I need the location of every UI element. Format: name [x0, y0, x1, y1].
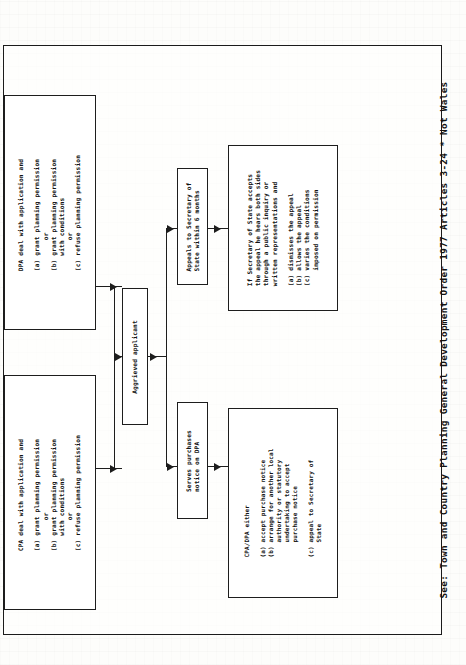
scanned-page: CPA deal with application and (a) grant … — [0, 0, 466, 665]
edge-split-rail — [166, 228, 167, 466]
edge-purchase-notice-to-either-arrowhead — [214, 463, 221, 471]
node-secretary-outcome[interactable]: If Secretary of State accepts the appeal… — [228, 145, 338, 311]
node-cpa-dpa-either[interactable]: CPA/DPA either (a) accept purchase notic… — [228, 408, 338, 598]
node-aggrieved-applicant[interactable]: Aggrieved applicant — [122, 288, 148, 425]
node-serves-purchase-notice-text: Serves purchases notice on DPA — [184, 429, 200, 491]
node-secretary-outcome-text: If Secretary of State accepts the appeal… — [246, 170, 320, 286]
node-appeals-to-secretary-text: Appeals to Secretary of State within 6 m… — [184, 182, 200, 271]
node-dpa-decision[interactable]: DPA deal with application and (a) grant … — [4, 95, 96, 330]
node-cpa-dpa-either-text: CPA/DPA either (a) accept purchase notic… — [243, 448, 323, 557]
edge-merge-rail — [114, 286, 115, 469]
node-cpa-decision-text: CPA deal with application and (a) grant … — [17, 434, 83, 550]
node-aggrieved-applicant-text: Aggrieved applicant — [131, 320, 139, 394]
edge-merge-into-aggrieved-arrowhead — [115, 353, 122, 361]
edge-cpa-to-merge — [96, 468, 122, 469]
edge-split-to-purchase-notice-arrowhead — [167, 463, 174, 471]
node-appeals-to-secretary[interactable]: Appeals to Secretary of State within 6 m… — [177, 168, 208, 285]
source-caption-text: See: Town and Country Planning General D… — [438, 81, 449, 598]
source-caption: See: Town and Country Planning General D… — [426, 45, 460, 635]
node-dpa-decision-text: DPA deal with application and (a) grant … — [17, 154, 83, 270]
node-serves-purchase-notice[interactable]: Serves purchases notice on DPA — [177, 402, 208, 519]
node-cpa-decision[interactable]: CPA deal with application and (a) grant … — [4, 375, 96, 610]
edge-aggrieved-out-arrowhead — [150, 353, 157, 361]
edge-appeals-to-outcome-arrowhead — [214, 225, 221, 233]
edge-split-to-appeals-arrowhead — [167, 225, 174, 233]
edge-dpa-to-merge — [96, 286, 122, 287]
